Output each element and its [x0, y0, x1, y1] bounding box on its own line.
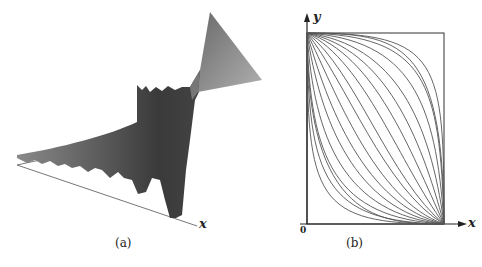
panel-b-x-axis-label: x	[468, 215, 476, 230]
panel-b-plot	[300, 13, 467, 227]
panel-b-caption: (b)	[346, 236, 363, 250]
y-axis-arrow-icon	[304, 13, 310, 22]
panel-a-x-axis-label: x	[199, 216, 207, 231]
surface-cone	[198, 12, 262, 92]
panel-a-surface	[17, 12, 262, 226]
panel-a-caption: (a)	[115, 236, 132, 250]
panel-b-origin-label: 0	[300, 225, 306, 235]
panel-b-y-axis-label: y	[313, 9, 321, 24]
figure-canvas	[0, 0, 482, 267]
x-axis-arrow-icon	[458, 221, 467, 227]
surface-body	[17, 70, 205, 218]
curve-family	[307, 33, 444, 224]
